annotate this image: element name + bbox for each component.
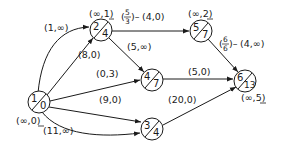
node-3: 3 4 bbox=[141, 118, 163, 140]
edge-1-4 bbox=[50, 80, 140, 101]
svg-text:2: 2 bbox=[93, 21, 99, 32]
svg-text:5: 5 bbox=[193, 22, 199, 33]
svg-text:3: 3 bbox=[144, 120, 150, 131]
edge-label-2-4: (5,∞) bbox=[127, 41, 151, 52]
node-6: 6 13 bbox=[234, 70, 256, 92]
svg-text:4: 4 bbox=[144, 71, 150, 82]
edge-1-2-curved bbox=[38, 27, 89, 93]
svg-text:6: 6 bbox=[223, 44, 228, 53]
svg-text:1: 1 bbox=[31, 93, 37, 104]
edge-label-4-6: (5,0) bbox=[188, 66, 211, 77]
edge-label-1-2-curved: (1,∞) bbox=[44, 22, 68, 33]
svg-text:6: 6 bbox=[223, 35, 228, 44]
svg-text:7: 7 bbox=[202, 29, 208, 40]
node-4: 4 7 bbox=[141, 69, 163, 91]
node-5-label: (∞,2) bbox=[188, 8, 212, 19]
edge-1-2-straight bbox=[47, 38, 93, 95]
svg-text:)–: )– bbox=[229, 38, 238, 49]
edge-label-1-3-curved: (11,∞) bbox=[43, 125, 73, 136]
svg-text:4: 4 bbox=[102, 28, 108, 39]
node-5: 5 7 bbox=[190, 20, 212, 42]
edge-3-6 bbox=[163, 87, 236, 125]
node-2-label: (∞,1) bbox=[89, 8, 113, 19]
node-6-label: (∞,5) bbox=[241, 92, 265, 103]
edge-label-3-6: (20,0) bbox=[168, 94, 197, 105]
edge-label-1-2-straight: (8,0) bbox=[78, 49, 101, 60]
edge-label-1-3-straight: (9,0) bbox=[99, 94, 122, 105]
network-diagram: 1 0 2 4 5 7 4 7 6 13 3 4 (∞,0) (∞,1) (∞,… bbox=[0, 0, 284, 146]
svg-text:6: 6 bbox=[237, 72, 243, 83]
edge-label-5-6: ( 6 6 )– (4,∞) bbox=[219, 35, 264, 53]
node-2: 2 4 bbox=[90, 19, 112, 41]
svg-text:7: 7 bbox=[153, 78, 159, 89]
svg-text:4: 4 bbox=[153, 127, 159, 138]
edge-label-1-4: (0,3) bbox=[96, 68, 119, 79]
node-1-label: (∞,0) bbox=[16, 115, 40, 126]
svg-text:0: 0 bbox=[40, 100, 46, 111]
svg-text:13: 13 bbox=[244, 80, 255, 90]
node-1: 1 0 bbox=[28, 91, 50, 113]
edge-label-2-5: ( 5 3 )– (4,0) bbox=[121, 8, 165, 26]
svg-text:(4,0): (4,0) bbox=[142, 11, 165, 22]
svg-text:3: 3 bbox=[125, 17, 130, 26]
svg-text:(4,∞): (4,∞) bbox=[240, 38, 264, 49]
edge-1-3-straight bbox=[49, 107, 141, 122]
svg-text:5: 5 bbox=[125, 8, 130, 17]
svg-text:)–: )– bbox=[131, 11, 140, 22]
